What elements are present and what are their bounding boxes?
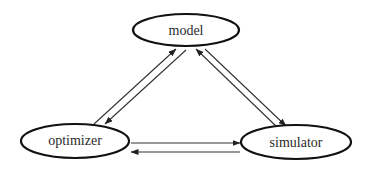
model-label: model: [169, 23, 204, 38]
arrow-model-to-optimizer: [105, 50, 186, 124]
arrow-simulator-to-model: [196, 49, 277, 127]
optimizer-label: optimizer: [48, 133, 102, 148]
node-simulator[interactable]: simulator: [241, 125, 351, 159]
simulator-label: simulator: [270, 135, 323, 150]
arrow-optimizer-to-model: [94, 49, 176, 124]
diagram-canvas: model optimizer simulator: [0, 0, 368, 169]
arrow-model-to-simulator: [205, 49, 286, 126]
node-model[interactable]: model: [133, 14, 239, 46]
node-optimizer[interactable]: optimizer: [21, 124, 129, 158]
